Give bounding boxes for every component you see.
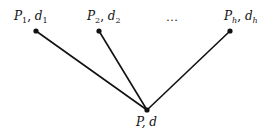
- node-p1-label: P1, d1: [14, 10, 48, 22]
- edge-p2-to-p: [99, 31, 147, 110]
- label-d-subscript: 2: [116, 16, 121, 25]
- node-p1-dot: [33, 28, 38, 33]
- label-d-subscript: 1: [43, 16, 48, 25]
- node-ph-label: Ph, dh: [224, 10, 258, 22]
- node-root-label: P, d: [136, 116, 157, 128]
- label-d: d: [35, 9, 43, 23]
- label-separator: ,: [237, 9, 245, 23]
- edge-p1-to-p: [36, 31, 147, 110]
- tree-diagram: P1, d1 P2, d2 … Ph, dh P, d: [0, 0, 273, 132]
- edge-ph-to-p: [147, 31, 230, 110]
- node-p2-label: P2, d2: [87, 10, 121, 22]
- node-ph-dot: [227, 28, 232, 33]
- node-root-dot: [144, 107, 149, 112]
- label-p: P: [87, 9, 95, 23]
- ellipsis: …: [166, 10, 179, 25]
- label-separator: ,: [27, 9, 35, 23]
- label-separator: ,: [100, 9, 108, 23]
- node-p2-dot: [96, 28, 101, 33]
- label-d: d: [108, 9, 116, 23]
- label-p: P: [14, 9, 22, 23]
- label-p: P: [224, 9, 232, 23]
- label-d: d: [245, 9, 253, 23]
- label-d-subscript: h: [253, 16, 258, 25]
